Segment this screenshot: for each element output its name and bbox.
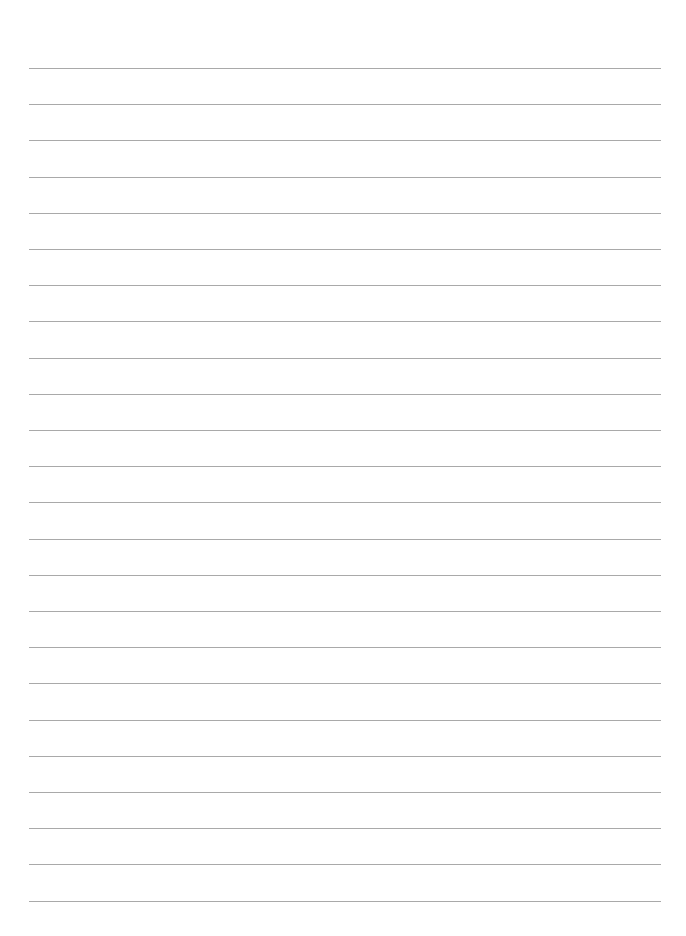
ruled-paper-page [0, 0, 686, 936]
ruled-line [29, 901, 661, 902]
ruled-line [29, 756, 661, 757]
ruled-line [29, 430, 661, 431]
ruled-line [29, 358, 661, 359]
ruled-line [29, 285, 661, 286]
ruled-line [29, 575, 661, 576]
ruled-line [29, 647, 661, 648]
ruled-line [29, 720, 661, 721]
ruled-line [29, 611, 661, 612]
ruled-line [29, 68, 661, 69]
ruled-line [29, 864, 661, 865]
ruled-line [29, 321, 661, 322]
ruled-line [29, 213, 661, 214]
ruled-line [29, 539, 661, 540]
ruled-line [29, 104, 661, 105]
ruled-line [29, 683, 661, 684]
ruled-line [29, 502, 661, 503]
ruled-line [29, 140, 661, 141]
ruled-line [29, 394, 661, 395]
ruled-line [29, 249, 661, 250]
ruled-line [29, 828, 661, 829]
ruled-line [29, 177, 661, 178]
ruled-line [29, 466, 661, 467]
ruled-line [29, 792, 661, 793]
